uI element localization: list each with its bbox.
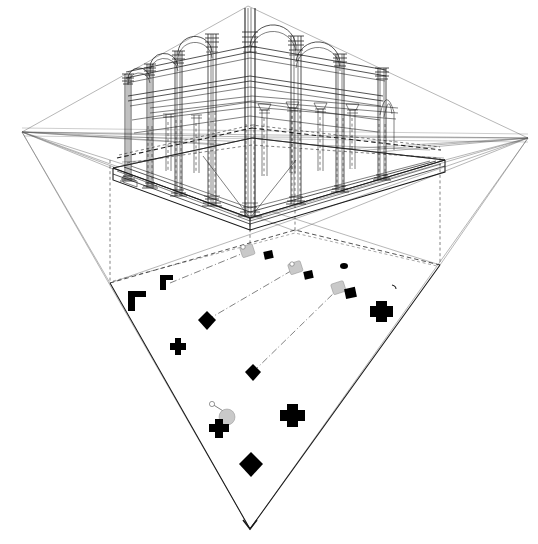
leader-node-icon — [290, 262, 294, 266]
leader-node-icon — [209, 401, 214, 406]
leader-node-icon — [241, 245, 245, 249]
plan-marker-dot — [340, 263, 348, 269]
architectural-perspective-svg — [0, 0, 538, 544]
background — [0, 0, 538, 544]
drawing-canvas — [0, 0, 538, 544]
